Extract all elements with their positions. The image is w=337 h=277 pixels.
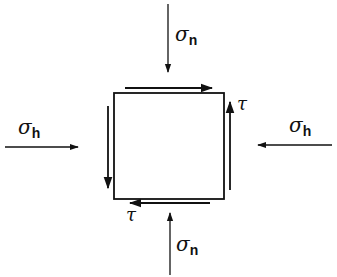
- stress-element-diagram: [0, 0, 337, 277]
- tau-bottom-label: τ: [126, 206, 136, 224]
- sigma-h-right-label: σh: [289, 115, 311, 135]
- tau-right-label: τ: [237, 95, 247, 113]
- sigma-n-bottom-label: σn: [176, 234, 198, 254]
- stress-element-square: [114, 93, 224, 199]
- sigma-n-top-label: σn: [175, 24, 197, 44]
- sigma-h-left-label: σh: [18, 117, 40, 137]
